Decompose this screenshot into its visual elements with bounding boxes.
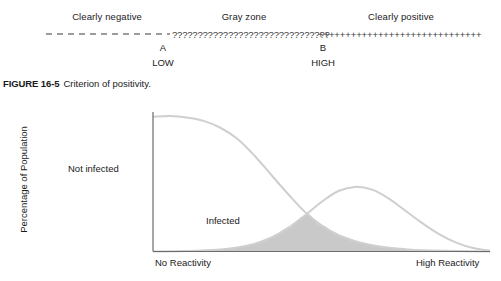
x-axis-label-low: No Reactivity [155, 257, 211, 268]
curve-annotation-infected: Infected [206, 215, 240, 226]
gray-zone-question-marks: ??????????????????????????????? [172, 29, 330, 40]
positive-plus-signs: ++++++++++++++++++++++++++++++ [318, 29, 482, 40]
criterion-of-positivity-diagram: Clearly negative Gray zone Clearly posit… [0, 0, 501, 72]
figure-number: FIGURE 16-5 [3, 78, 59, 89]
x-axis-label-high: High Reactivity [416, 257, 479, 268]
overlap-shaded-area [153, 214, 490, 251]
marker-b-sublabel: HIGH [300, 57, 346, 68]
marker-a-sublabel: LOW [140, 57, 186, 68]
chart-canvas [0, 100, 501, 281]
zone-label-clearly-negative: Clearly negative [42, 11, 172, 22]
marker-a-letter: A [143, 42, 183, 53]
figure-caption-text: Criterion of positivity. [63, 78, 150, 89]
criterion-scale-line: ??????????????????????????????? ++++++++… [0, 26, 501, 42]
y-axis-label: Percentage of Population [18, 110, 29, 250]
zone-label-gray-zone: Gray zone [196, 11, 292, 22]
marker-b-letter: B [303, 42, 343, 53]
figure-caption: FIGURE 16-5Criterion of positivity. [3, 78, 151, 89]
population-distribution-chart: Percentage of Population No Reactivity H… [0, 100, 501, 281]
zone-label-clearly-positive: Clearly positive [340, 11, 462, 22]
curve-annotation-not-infected: Not infected [68, 163, 128, 176]
